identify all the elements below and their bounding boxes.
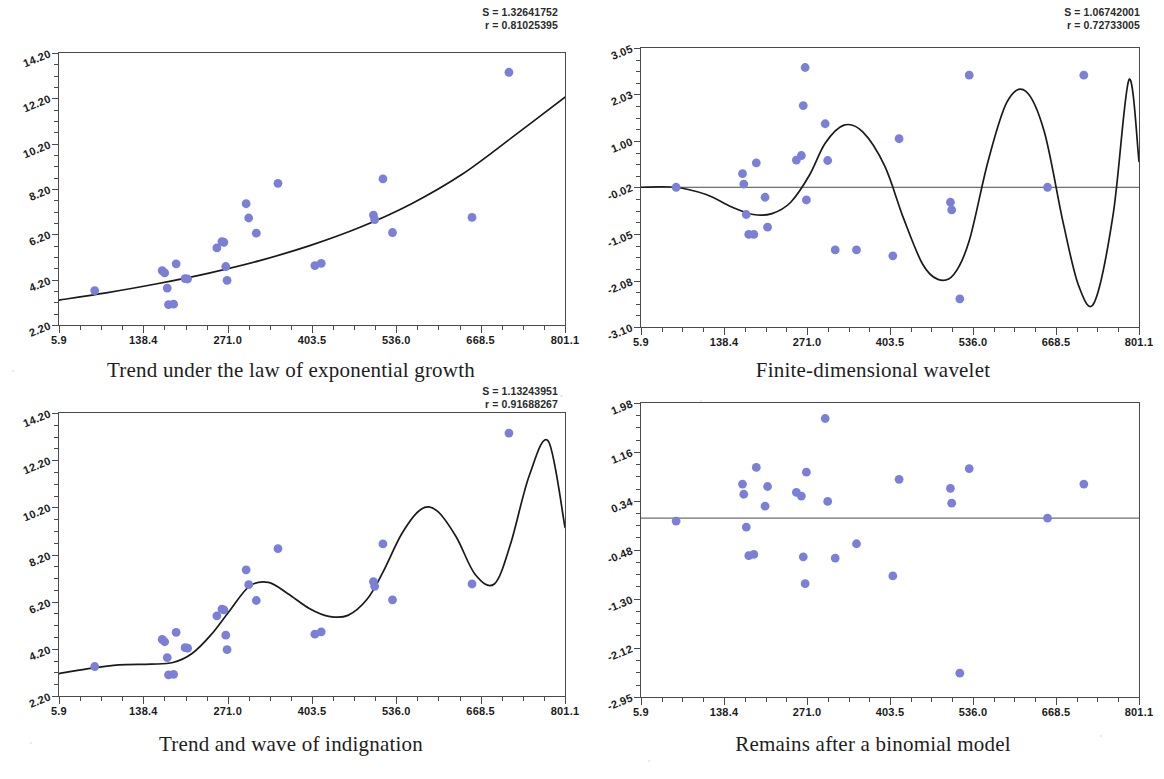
x-tick-label: 801.1 bbox=[551, 334, 580, 346]
y-tick-mark bbox=[52, 413, 58, 414]
y-tick-mark bbox=[52, 555, 58, 556]
y-minor-tick bbox=[636, 562, 640, 563]
x-minor-tick bbox=[270, 697, 271, 701]
data-point bbox=[895, 134, 904, 143]
y-minor-tick bbox=[54, 472, 58, 473]
x-minor-tick bbox=[375, 326, 376, 330]
y-tick-label: -2.12 bbox=[606, 642, 635, 663]
y-tick-mark bbox=[52, 234, 58, 235]
y-minor-tick bbox=[636, 464, 640, 465]
fit-curve bbox=[641, 79, 1139, 306]
data-point bbox=[763, 482, 772, 491]
data-point bbox=[965, 71, 974, 80]
y-minor-tick bbox=[636, 222, 640, 223]
x-minor-tick bbox=[1014, 328, 1015, 332]
y-minor-tick bbox=[636, 525, 640, 526]
x-tick-mark bbox=[973, 698, 974, 705]
y-tick-label: 4.20 bbox=[27, 274, 52, 293]
y-minor-tick bbox=[54, 661, 58, 662]
x-minor-tick bbox=[745, 698, 746, 702]
data-point bbox=[379, 539, 388, 548]
x-minor-tick bbox=[502, 326, 503, 330]
x-minor-tick bbox=[523, 326, 524, 330]
x-tick-label: 5.9 bbox=[51, 705, 67, 717]
data-point bbox=[317, 259, 326, 268]
data-point bbox=[169, 300, 178, 309]
data-point bbox=[802, 196, 811, 205]
y-minor-tick bbox=[54, 613, 58, 614]
y-minor-tick bbox=[54, 223, 58, 224]
r-value-top-right: r = 0.72733005 bbox=[1064, 19, 1140, 32]
x-tick-mark bbox=[641, 328, 642, 335]
y-tick-label: 2.03 bbox=[609, 89, 634, 108]
x-tick-mark bbox=[312, 326, 313, 333]
y-minor-tick bbox=[54, 246, 58, 247]
data-point bbox=[799, 552, 808, 561]
plot-frame-bottom-right bbox=[640, 402, 1140, 698]
data-point bbox=[742, 523, 751, 532]
data-point bbox=[749, 230, 758, 239]
y-tick-mark bbox=[52, 325, 58, 326]
y-minor-tick bbox=[54, 121, 58, 122]
y-minor-tick bbox=[636, 118, 640, 119]
x-minor-tick bbox=[1077, 698, 1078, 702]
scan-artifact bbox=[1100, 735, 1102, 737]
x-minor-tick bbox=[1014, 698, 1015, 702]
x-tick-mark bbox=[641, 698, 642, 705]
data-point bbox=[965, 464, 974, 473]
y-minor-tick bbox=[636, 211, 640, 212]
y-minor-tick bbox=[54, 87, 58, 88]
x-tick-mark bbox=[1056, 698, 1057, 705]
x-tick-label: 271.0 bbox=[793, 336, 822, 348]
plot-canvas bbox=[641, 403, 1139, 697]
y-minor-tick bbox=[636, 537, 640, 538]
x-minor-tick bbox=[186, 697, 187, 701]
x-minor-tick bbox=[1097, 328, 1098, 332]
x-tick-mark bbox=[724, 328, 725, 335]
data-point bbox=[947, 206, 956, 215]
data-point bbox=[505, 68, 514, 77]
y-tick-mark bbox=[52, 189, 58, 190]
x-tick-mark bbox=[396, 326, 397, 333]
y-minor-tick bbox=[54, 543, 58, 544]
data-point bbox=[252, 596, 261, 605]
x-tick-label: 138.4 bbox=[710, 336, 739, 348]
x-minor-tick bbox=[828, 698, 829, 702]
x-tick-label: 403.5 bbox=[876, 336, 905, 348]
y-tick-mark bbox=[52, 280, 58, 281]
r-value-top-left: r = 0.81025395 bbox=[482, 19, 558, 32]
data-point bbox=[895, 475, 904, 484]
y-minor-tick bbox=[54, 625, 58, 626]
y-minor-tick bbox=[636, 660, 640, 661]
x-tick-label: 403.5 bbox=[298, 334, 327, 346]
data-point bbox=[223, 645, 232, 654]
y-tick-label: 10.20 bbox=[21, 502, 52, 524]
y-minor-tick bbox=[54, 496, 58, 497]
data-point bbox=[317, 627, 326, 636]
x-tick-mark bbox=[890, 698, 891, 705]
y-minor-tick bbox=[54, 425, 58, 426]
y-tick-label: -1.30 bbox=[606, 593, 635, 614]
data-point bbox=[219, 238, 228, 247]
y-tick-label: -0.48 bbox=[606, 544, 635, 565]
x-tick-mark bbox=[481, 326, 482, 333]
x-minor-tick bbox=[375, 697, 376, 701]
x-minor-tick bbox=[101, 326, 102, 330]
y-minor-tick bbox=[636, 269, 640, 270]
x-tick-mark bbox=[143, 326, 144, 333]
y-tick-label: 8.20 bbox=[27, 183, 52, 202]
x-minor-tick bbox=[502, 697, 503, 701]
x-tick-mark bbox=[143, 697, 144, 704]
y-minor-tick bbox=[636, 574, 640, 575]
data-point bbox=[801, 579, 810, 588]
scan-artifact bbox=[700, 400, 702, 402]
data-point bbox=[163, 653, 172, 662]
x-minor-tick bbox=[122, 326, 123, 330]
y-tick-mark bbox=[634, 94, 640, 95]
caption-top-left: Trend under the law of exponential growt… bbox=[0, 358, 582, 383]
stats-block-top-right: S = 1.06742001 r = 0.72733005 bbox=[1064, 6, 1140, 32]
x-minor-tick bbox=[417, 697, 418, 701]
panel-top-left: S = 1.32641752 r = 0.81025395 14.2012.20… bbox=[0, 0, 582, 390]
data-point bbox=[672, 517, 681, 526]
figure-grid: S = 1.32641752 r = 0.81025395 14.2012.20… bbox=[0, 0, 1164, 779]
